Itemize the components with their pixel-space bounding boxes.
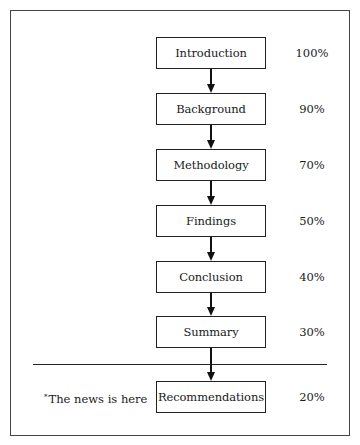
step-box-summary: Summary [156,316,266,348]
step-label: Methodology [173,158,248,172]
step-percent-introduction: 100% [290,37,334,69]
step-label: Background [176,102,246,116]
step-box-findings: Findings [156,205,266,237]
section-divider [33,364,327,365]
step-box-introduction: Introduction [156,37,266,69]
step-label: Summary [183,325,238,339]
step-label: Introduction [175,46,247,60]
step-percent-methodology: 70% [290,149,334,181]
arrow-down-icon [205,181,217,205]
arrow-down-icon [205,125,217,149]
step-label: Recommendations [158,390,264,404]
arrow-down-icon [205,237,217,261]
step-percent-recommendations: 20% [290,381,334,413]
footnote: *The news is here [44,381,147,413]
step-label: Conclusion [179,270,243,284]
step-box-recommendations: Recommendations [156,381,266,413]
step-label: Findings [186,214,236,228]
step-percent-findings: 50% [290,205,334,237]
step-box-conclusion: Conclusion [156,261,266,293]
step-percent-background: 90% [290,93,334,125]
arrow-down-icon [205,293,217,316]
arrow-down-icon [205,69,217,93]
step-percent-summary: 30% [290,316,334,348]
step-box-background: Background [156,93,266,125]
step-percent-conclusion: 40% [290,261,334,293]
step-box-methodology: Methodology [156,149,266,181]
footnote-text: The news is here [49,392,148,406]
footnote-marker: * [44,393,48,401]
